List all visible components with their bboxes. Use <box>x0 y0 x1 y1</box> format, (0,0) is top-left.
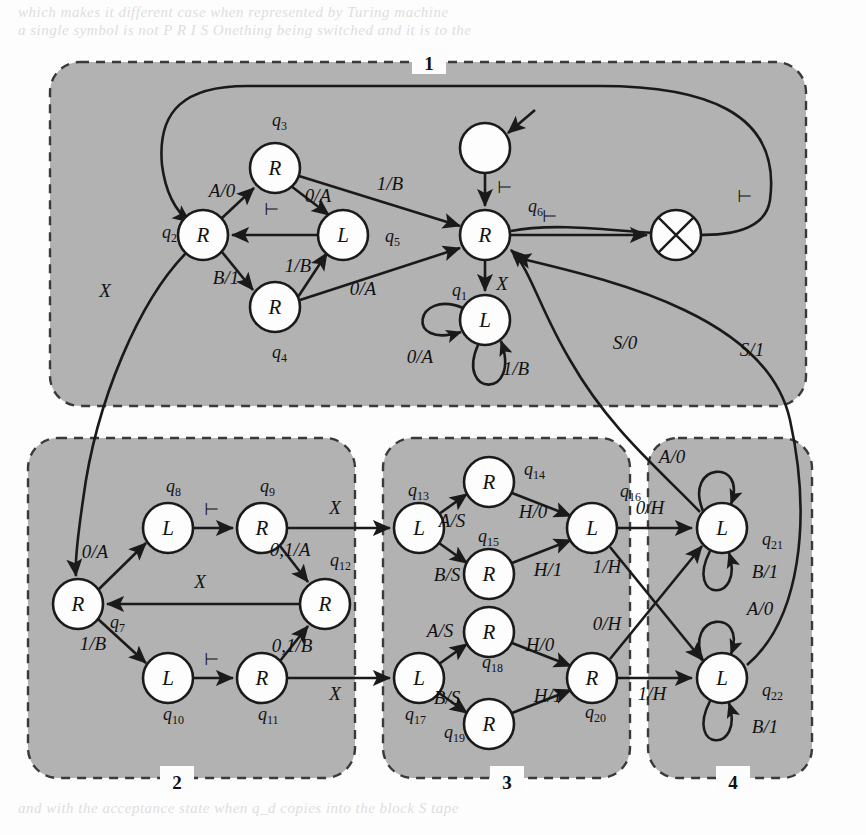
node-start[interactable] <box>460 123 510 173</box>
node-name-subscript: 18 <box>491 661 503 675</box>
edge-label-e-q8-q9: ⊢ <box>205 499 220 519</box>
edge-label-e-q22-q22-b: B/1 <box>752 716 778 737</box>
edge-label-e-q13-q15: B/S <box>434 564 461 585</box>
node-head-direction-label: L <box>478 308 491 332</box>
node-name-subscript: 8 <box>175 485 181 499</box>
node-name-subscript: 13 <box>417 489 429 503</box>
edge-label-e-start-q6: ⊢ <box>498 177 513 197</box>
node-q2[interactable]: R <box>178 210 228 260</box>
node-q12[interactable]: R <box>300 579 350 629</box>
edge-label-e-q9-q13: X <box>328 497 342 518</box>
node-head-direction-label: R <box>482 620 496 644</box>
edge-label-e-q21-q21-a: A/0 <box>657 446 686 467</box>
node-name-base: q16 <box>620 481 641 504</box>
node-q11[interactable]: R <box>237 653 287 703</box>
node-q18[interactable]: R <box>464 607 514 657</box>
edge-label-e-q7-q10: 1/B <box>80 633 107 654</box>
group-label-4: 4 <box>728 772 738 793</box>
node-name-subscript: 19 <box>453 731 465 745</box>
node-head-direction-label: L <box>161 516 174 540</box>
node-q10[interactable]: L <box>143 653 193 703</box>
edge-label-e-q3-q5: 0/A <box>305 185 332 206</box>
node-name-q16: q16 <box>620 481 641 504</box>
edge-label-e-q21-q21-b: B/1 <box>752 561 778 582</box>
edge-label-e-q21-q6: S/0 <box>613 332 638 353</box>
edge-label-e-q5-q2: ⊢ <box>265 199 280 219</box>
node-head-direction-label: L <box>412 666 425 690</box>
node-q19[interactable]: R <box>464 699 514 749</box>
node-head-direction-label: R <box>585 666 599 690</box>
edge-label-e-q19-q20: H/1 <box>533 685 563 706</box>
node-head-direction-label: R <box>268 156 282 180</box>
edge-label-e-q9-q12: 0,1/A <box>270 539 311 560</box>
node-q1[interactable]: L <box>460 295 510 345</box>
node-head-direction-label: R <box>255 516 269 540</box>
node-q16[interactable]: L <box>567 503 617 553</box>
node-head-direction-label: L <box>161 666 174 690</box>
node-head-direction-label: R <box>318 592 332 616</box>
edge-label-e-q10-q11: ⊢ <box>205 649 220 669</box>
node-head-direction-label: R <box>478 223 492 247</box>
node-name-subscript: 3 <box>281 119 287 133</box>
edge-label-e-q15-q16: H/1 <box>533 559 563 580</box>
node-q15[interactable]: R <box>464 549 514 599</box>
edge-label-e-q20-q21: 0/H <box>593 613 623 634</box>
node-head-direction-label: R <box>482 712 496 736</box>
edge-label-e-q17-q19: B/S <box>434 687 461 708</box>
edge-label-e-q22-q22-a: A/0 <box>745 598 774 619</box>
edge-label-e-q7-q8: 0/A <box>82 541 109 562</box>
edge-label-e-q4-q6: 0/A <box>350 278 377 299</box>
edge-label-e-q14-q16: H/0 <box>518 501 548 522</box>
edge-label-e-q2-q4: B/1 <box>213 267 239 288</box>
node-head-direction-label: R <box>255 666 269 690</box>
edge-label-e-q16-q22: 1/H <box>593 556 623 577</box>
edge-label-e-q20-q22: 1/H <box>638 683 668 704</box>
node-q4[interactable]: R <box>250 282 300 332</box>
node-head-direction-label: R <box>482 470 496 494</box>
node-head-direction-label: R <box>71 592 85 616</box>
node-q7[interactable]: R <box>53 579 103 629</box>
group-label-1: 1 <box>424 53 434 74</box>
node-name-subscript: 20 <box>594 711 606 725</box>
node-name-subscript: 14 <box>533 468 545 482</box>
edge-label-e-q6-q1: X <box>495 273 509 294</box>
node-q13[interactable]: L <box>394 503 444 553</box>
node-head-direction-label: L <box>715 516 728 540</box>
group-label-2: 2 <box>172 772 182 793</box>
edge-label-e-bigloop: ⊢ <box>738 186 753 206</box>
node-name-subscript: 10 <box>172 713 184 727</box>
node-name-subscript: 4 <box>281 351 287 365</box>
edge-label-e-q13-q14: A/S <box>437 510 466 531</box>
node-q21[interactable]: L <box>697 503 747 553</box>
edge-label-e-q22-q6: S/1 <box>740 339 764 360</box>
edge-label-e-q11-q17: X <box>328 683 342 704</box>
node-name-subscript: 7 <box>119 621 125 635</box>
node-name-subscript: 5 <box>394 235 400 249</box>
edge-label-e-q2-q7: X <box>98 280 112 301</box>
node-head-direction-label: L <box>715 666 728 690</box>
edge-label-e-q18-q20: H/0 <box>525 634 555 655</box>
edge-label-e-q3-q6: 1/B <box>377 173 404 194</box>
node-name-subscript: 11 <box>267 713 279 727</box>
node-q14[interactable]: R <box>464 457 514 507</box>
edge-label-e-q11-q12: 0,1/B <box>272 635 313 656</box>
node-q20[interactable]: R <box>567 653 617 703</box>
edge-label-e-q6-halt: ⊢ <box>543 206 558 226</box>
node-head-direction-label: L <box>412 516 425 540</box>
node-q22[interactable]: L <box>697 653 747 703</box>
node-name-subscript: 22 <box>771 689 783 703</box>
node-q3[interactable]: R <box>250 143 300 193</box>
state-diagram-svg: 1 2 3 4 <box>0 0 866 835</box>
node-name-subscript: 9 <box>269 485 275 499</box>
node-q8[interactable]: L <box>143 503 193 553</box>
node-name-subscript: 16 <box>629 490 641 504</box>
node-name-subscript: 2 <box>171 231 177 245</box>
node-name-subscript: 15 <box>487 535 499 549</box>
node-name-subscript: 12 <box>339 559 351 573</box>
node-q6[interactable]: R <box>460 210 510 260</box>
edge-label-e-q2-q3: A/0 <box>207 180 236 201</box>
edge-label-e-q1-q1-b: 1/B <box>503 358 530 379</box>
node-q5[interactable]: L <box>318 210 368 260</box>
edge-label-e-q4-q5: 1/B <box>285 255 312 276</box>
node-name-subscript: 21 <box>771 538 783 552</box>
